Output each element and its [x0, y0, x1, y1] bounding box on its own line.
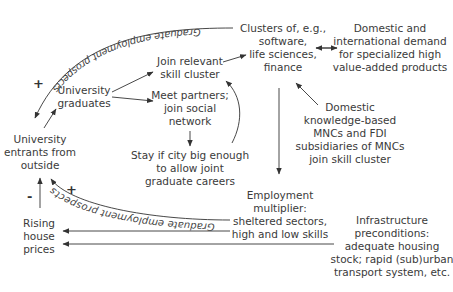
- node-entrants: University entrants from outside: [4, 133, 76, 172]
- entrants-to-graduates-arrow: [44, 109, 56, 128]
- node-graduates: University graduates: [57, 84, 110, 110]
- plus-sign-top: +: [33, 76, 44, 91]
- node-meet-partners: Meet partners; join social network: [151, 89, 228, 128]
- node-demand: Domestic and international demand for sp…: [333, 22, 448, 74]
- node-house-prices: Rising house prices: [23, 217, 55, 256]
- plus-sign-bottom: +: [66, 182, 77, 197]
- graduates-to-join-arrow: [112, 72, 153, 92]
- graduates-to-partners-arrow: [112, 97, 153, 101]
- node-stay: Stay if city big enough to allow joint g…: [131, 149, 249, 188]
- minus-sign: -: [27, 189, 32, 204]
- node-mncs: Domestic knowledge-based MNCs and FDI su…: [296, 101, 405, 166]
- node-join-cluster: Join relevant skill cluster: [157, 55, 223, 81]
- node-infrastructure: Infrastructure preconditions: adequate h…: [331, 214, 453, 279]
- node-clusters: Clusters of, e.g., software, life scienc…: [240, 22, 326, 74]
- node-multiplier: Employment multiplier: sheltered sectors…: [232, 189, 328, 241]
